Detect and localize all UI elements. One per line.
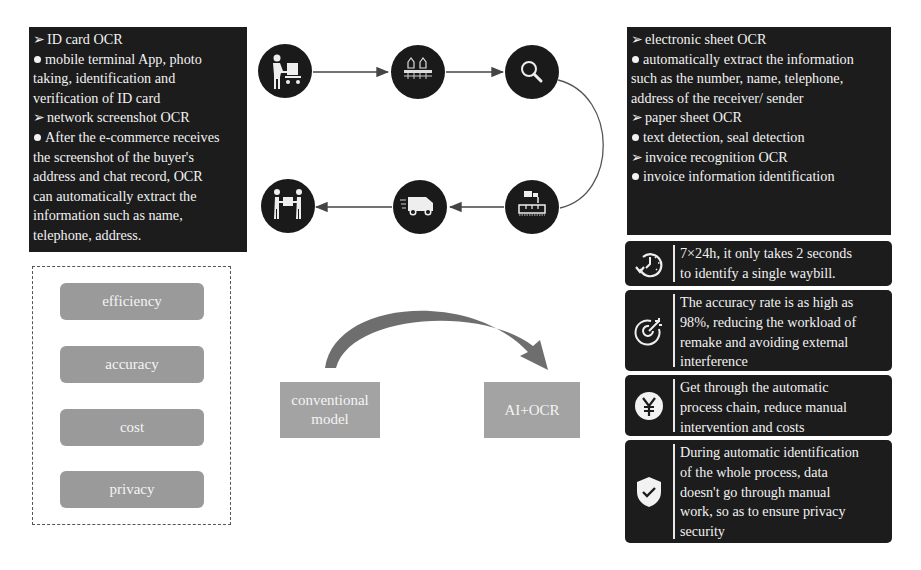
feature-card-speed: 7×24h, it only takes 2 seconds to identi… bbox=[625, 241, 892, 286]
card-divider bbox=[673, 379, 675, 432]
transition-arrow bbox=[325, 311, 548, 370]
advantage-privacy: privacy bbox=[60, 471, 204, 508]
ai-ocr-model-box: AI+OCR bbox=[484, 382, 580, 438]
sorting-machine-icon bbox=[391, 45, 445, 99]
advantage-accuracy: accuracy bbox=[60, 346, 204, 383]
shield-check-icon bbox=[625, 440, 672, 543]
feature-text: 7×24h, it only takes 2 seconds to identi… bbox=[680, 244, 888, 284]
feature-text: During automatic identification of the w… bbox=[680, 443, 888, 542]
package-handover-icon bbox=[261, 179, 315, 233]
feature-card-accuracy: The accuracy rate is as high as 98%, red… bbox=[625, 290, 892, 371]
card-divider bbox=[673, 245, 675, 282]
worker-with-cart-icon bbox=[258, 44, 312, 98]
delivery-truck-icon bbox=[393, 180, 447, 234]
feature-card-privacy: During automatic identification of the w… bbox=[625, 440, 892, 543]
card-divider bbox=[673, 294, 675, 367]
clock-24h-icon bbox=[625, 241, 672, 286]
feature-text: The accuracy rate is as high as 98%, red… bbox=[680, 293, 888, 372]
robotic-sorting-icon bbox=[505, 180, 559, 234]
feature-card-cost: Get through the automatic process chain,… bbox=[625, 375, 892, 436]
conventional-model-box: conventional model bbox=[280, 382, 380, 438]
feature-text: Get through the automatic process chain,… bbox=[680, 378, 888, 437]
yuan-icon bbox=[625, 375, 672, 436]
magnifier-icon bbox=[505, 45, 559, 99]
card-divider bbox=[673, 444, 675, 539]
advantage-efficiency: efficiency bbox=[60, 283, 204, 320]
flow-curved-connector bbox=[558, 80, 603, 208]
advantage-cost: cost bbox=[60, 409, 204, 446]
target-icon bbox=[625, 290, 672, 371]
